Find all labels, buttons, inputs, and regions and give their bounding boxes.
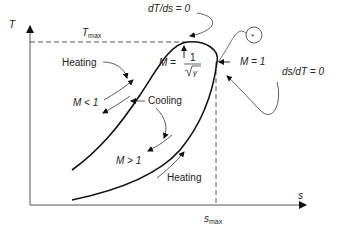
y-axis-label: T [9,19,16,30]
m-gamma-num: 1 [190,52,196,63]
m-greater-1-label: M > 1 [116,155,141,166]
rayleigh-ts-diagram: T s Tmax smax dT/ds = 0 M = 1 γ M = 1 * … [0,0,339,237]
m-gamma-lhs: M = [159,57,176,68]
heating-upper-label: Heating [62,57,96,68]
m-equals-1-label: M = 1 [240,56,265,67]
cooling-label: Cooling [148,95,182,106]
heating-lower-label: Heating [167,172,201,183]
x-axis-label: s [298,190,303,201]
ds-dT-zero-label: ds/dT = 0 [282,66,324,77]
cooling-flow-arrow-lower [148,135,172,151]
dT-ds-zero-label: dT/ds = 0 [148,3,190,14]
m-less-1-label: M < 1 [73,97,98,108]
star-symbol: * [251,32,254,41]
s-max-label: smax [204,213,223,225]
dT-ds-zero-arrow [190,13,213,36]
t-max-label: Tmax [82,27,102,39]
heating-upper-pointer [103,62,127,78]
m-gamma-den: γ [193,68,198,77]
cooling-pointer-lower [156,108,166,138]
ds-dT-zero-arrow [227,76,279,115]
